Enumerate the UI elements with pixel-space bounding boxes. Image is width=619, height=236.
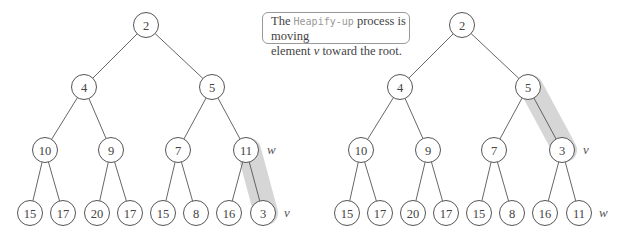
- heapify-up-code: Heapify-up: [294, 16, 354, 27]
- tree-edge: [565, 162, 575, 201]
- heap-node: 8: [500, 201, 525, 226]
- variable-label-w: w: [267, 142, 276, 157]
- heap-node: 20: [401, 201, 426, 226]
- heap-node: 20: [85, 201, 110, 226]
- tree-edge: [155, 34, 203, 79]
- heap-node: 5: [200, 75, 225, 100]
- node-value: 16: [223, 207, 236, 221]
- heap-node: 7: [482, 138, 507, 163]
- node-value: 3: [559, 144, 565, 158]
- heap-node: 17: [434, 201, 459, 226]
- heap-node: 2: [134, 13, 159, 38]
- node-value: 10: [39, 144, 52, 158]
- heap-node: 4: [72, 75, 97, 100]
- heap-node: 8: [184, 201, 209, 226]
- node-value: 11: [240, 144, 252, 158]
- heap-node: 10: [349, 138, 374, 163]
- heap-node: 11: [567, 201, 592, 226]
- tree-edge: [416, 162, 425, 201]
- tree-edge: [100, 162, 109, 201]
- heap-node: 7: [166, 138, 191, 163]
- node-value: 9: [108, 144, 114, 158]
- node-value: 5: [209, 81, 215, 95]
- node-value: 2: [143, 19, 149, 33]
- node-value: 17: [124, 207, 137, 221]
- heap-node: 16: [533, 201, 558, 226]
- node-value: 20: [407, 207, 420, 221]
- node-value: 8: [193, 207, 199, 221]
- heap-node: 11: [234, 138, 259, 163]
- node-value: 17: [57, 207, 70, 221]
- tree-edge: [115, 162, 127, 201]
- heap-node: 17: [368, 201, 393, 226]
- node-value: 4: [397, 81, 404, 95]
- tree-edge: [48, 162, 59, 201]
- heap-node: 15: [335, 201, 360, 226]
- heap-node: 9: [99, 138, 124, 163]
- node-value: 17: [440, 207, 453, 221]
- heap-node: 3: [550, 138, 575, 163]
- heap-node: 3: [251, 201, 276, 226]
- tree-edge: [93, 34, 137, 78]
- callout-text: The: [271, 14, 294, 28]
- heap-node: 15: [18, 201, 43, 226]
- tree-edge: [471, 34, 519, 79]
- tree-edge: [52, 98, 78, 140]
- tree-edge: [482, 162, 491, 201]
- tree-edge: [232, 162, 242, 201]
- tree-edge: [409, 34, 453, 78]
- callout-line-2: element v toward the root.: [271, 44, 409, 59]
- node-value: 15: [24, 207, 37, 221]
- heap-node: 4: [388, 75, 413, 100]
- tree-edge: [500, 98, 522, 139]
- tree-edge: [365, 162, 377, 201]
- callout-text: element: [271, 44, 314, 58]
- heap-node: 16: [217, 201, 242, 226]
- tree-edge: [497, 162, 508, 201]
- heap-node: 2: [450, 13, 475, 38]
- node-value: 5: [525, 81, 531, 95]
- tree-edge: [350, 162, 359, 201]
- node-value: 17: [374, 207, 387, 221]
- tree-edge: [184, 98, 206, 139]
- node-value: 11: [573, 207, 585, 221]
- node-value: 20: [91, 207, 104, 221]
- tree-edge: [166, 162, 175, 201]
- node-value: 7: [175, 144, 181, 158]
- tree-edge: [431, 162, 442, 201]
- heap-node: 10: [33, 138, 58, 163]
- tree-edge: [548, 162, 558, 201]
- heap-node: 9: [416, 138, 441, 163]
- node-value: 8: [509, 207, 515, 221]
- variable-label-v: v: [583, 142, 589, 157]
- heap-tree-before: 24510971115172017158163wv: [18, 13, 291, 226]
- tree-edge: [33, 162, 42, 201]
- heap-node: 17: [51, 201, 76, 226]
- node-value: 15: [473, 207, 486, 221]
- callout-text: toward the root.: [319, 44, 402, 58]
- variable-label-v: v: [284, 205, 290, 220]
- node-value: 2: [459, 19, 465, 33]
- heap-node: 17: [118, 201, 143, 226]
- callout-box: The Heapify-up process is moving element…: [262, 12, 410, 44]
- tree-edge: [405, 98, 423, 138]
- tree-edge: [89, 98, 106, 138]
- tree-edge: [218, 98, 240, 139]
- tree-edge: [181, 162, 192, 201]
- variable-label-w: w: [599, 205, 608, 220]
- node-value: 3: [260, 207, 266, 221]
- node-value: 16: [539, 207, 552, 221]
- heap-node: 5: [516, 75, 541, 100]
- node-value: 4: [81, 81, 88, 95]
- heap-node: 15: [467, 201, 492, 226]
- heap-node: 15: [151, 201, 176, 226]
- node-value: 9: [425, 144, 431, 158]
- tree-edge: [368, 98, 394, 140]
- callout-line-1: The Heapify-up process is moving: [271, 14, 409, 44]
- node-value: 15: [341, 207, 354, 221]
- node-value: 7: [491, 144, 497, 158]
- node-value: 15: [157, 207, 170, 221]
- node-value: 10: [355, 144, 368, 158]
